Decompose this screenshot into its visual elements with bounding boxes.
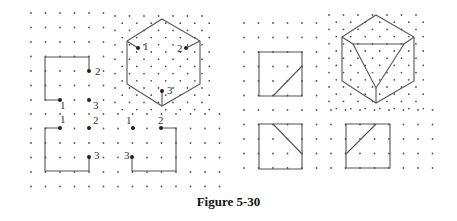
hexagon-right — [342, 15, 414, 103]
hex-point-1 — [136, 46, 140, 50]
label-3: 3 — [93, 99, 99, 111]
svg-text:3: 3 — [124, 149, 130, 161]
hex-label-3: 3 — [167, 84, 173, 96]
bottom-left-shape — [45, 128, 89, 171]
hex-label-1: 1 — [143, 40, 149, 52]
hex-point-2 — [184, 46, 188, 50]
hexagon-left — [127, 19, 200, 106]
figure-caption: Figure 5-30 — [0, 194, 457, 210]
figure-canvas: 1 2 3 1 2 3 1 2 3 1 2 3 — [0, 0, 457, 221]
label-2: 2 — [95, 65, 101, 77]
svg-text:1: 1 — [60, 113, 66, 125]
square-bottom-left — [259, 124, 302, 169]
hex-point-3 — [160, 89, 164, 93]
svg-text:2: 2 — [93, 114, 99, 126]
svg-text:2: 2 — [158, 114, 164, 126]
point-3 — [87, 98, 91, 102]
square-bottom-right — [346, 124, 390, 168]
top-left-shape — [45, 57, 89, 100]
hex-label-2: 2 — [177, 42, 183, 54]
bottom-middle-shape — [132, 128, 176, 171]
svg-text:1: 1 — [126, 114, 132, 126]
point-2 — [87, 69, 91, 73]
inscribed-triangle — [353, 44, 404, 88]
label-1: 1 — [60, 99, 66, 111]
square-top-right — [259, 52, 302, 96]
svg-text:3: 3 — [94, 149, 100, 161]
